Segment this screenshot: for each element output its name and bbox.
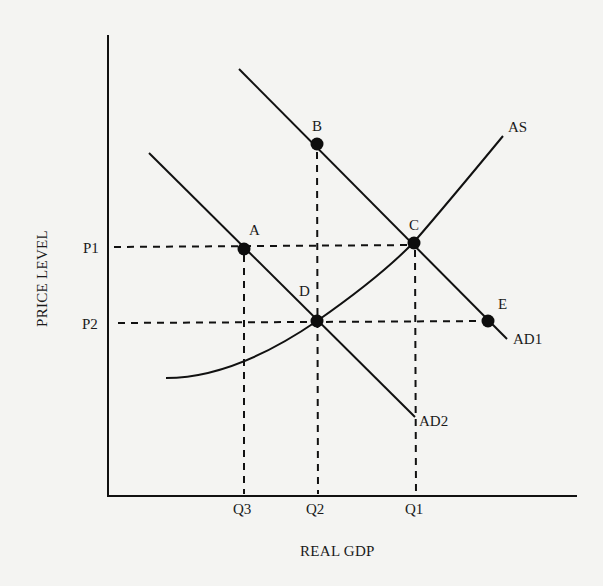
- label-d: D: [299, 283, 310, 299]
- tick-p2: P2: [82, 316, 98, 332]
- label-ad2: AD2: [419, 413, 448, 429]
- as-curve: [166, 136, 503, 378]
- label-b: B: [312, 118, 322, 134]
- p1-guide: [114, 245, 414, 247]
- label-ad1: AD1: [513, 331, 542, 347]
- point-b: [311, 138, 324, 151]
- tick-p1: P1: [83, 240, 99, 256]
- label-as: AS: [508, 119, 527, 135]
- x-axis-title: REAL GDP: [300, 543, 375, 559]
- point-c: [408, 237, 421, 250]
- label-c: C: [409, 217, 419, 233]
- tick-q2: Q2: [306, 501, 324, 517]
- tick-q1: Q1: [405, 501, 423, 517]
- q1-guide: [415, 250, 416, 494]
- point-e: [482, 315, 495, 328]
- y-axis-title: PRICE LEVEL: [34, 230, 50, 327]
- ad-as-chart: A B C D E AS AD1 AD2 P1 P2 Q3 Q2 Q1 REAL…: [0, 0, 603, 586]
- label-a: A: [249, 222, 260, 238]
- p2-guide: [118, 321, 488, 323]
- label-e: E: [498, 296, 507, 312]
- tick-q3: Q3: [233, 501, 251, 517]
- ad1-curve: [239, 69, 507, 339]
- point-d: [311, 315, 324, 328]
- point-a: [238, 243, 251, 256]
